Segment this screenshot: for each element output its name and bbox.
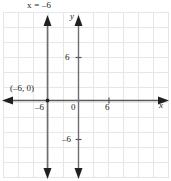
y-axis-tick-label-6: 6	[65, 53, 70, 62]
x-axis	[2, 97, 169, 105]
plot-line-x-equals-neg6	[44, 15, 52, 179]
grid-vertical-lines	[4, 12, 169, 178]
origin-label: 0	[71, 103, 76, 112]
line-equation-label: x = –6	[27, 1, 51, 10]
coordinate-plane-figure: x = –6 (–6, 0) –6 0 6 6 –6 y x	[0, 0, 171, 181]
grid-horizontal-lines	[3, 13, 169, 178]
y-axis-tick-label-neg6: –6	[62, 135, 71, 144]
y-axis	[75, 15, 83, 179]
axis-tick-marks	[76, 58, 110, 140]
x-axis-tick-label-neg6: –6	[35, 103, 44, 112]
x-axis-tick-label-6: 6	[105, 103, 110, 112]
point-coordinate-label: (–6, 0)	[10, 84, 34, 93]
x-axis-name-label: x	[159, 101, 163, 110]
y-axis-name-label: y	[70, 12, 74, 21]
point-marker-neg6-0	[46, 99, 50, 103]
